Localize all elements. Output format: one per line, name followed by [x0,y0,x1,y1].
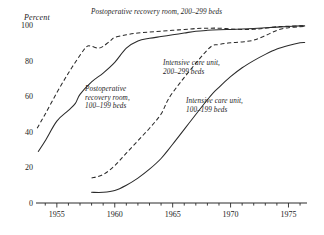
y-tick-label: 100 [21,21,33,30]
annot-prr-100: 100–199 beds [85,102,126,110]
chart-annotations: Postoperative recovery room, 200–299 bed… [84,8,243,114]
series-line-1 [38,26,304,152]
y-tick-label: 0 [29,199,33,208]
annot-icu-200: Intensive care unit, [162,59,220,67]
annot-prr-200: Postoperative recovery room, 200–299 bed… [90,8,222,16]
series-lines [37,26,305,193]
x-tick-label: 1975 [280,210,296,219]
x-tick-label: 1955 [49,210,65,219]
y-tick-label: 60 [25,92,33,101]
x-tick-label: 1970 [223,210,239,219]
annot-icu-100: 100–199 beds [186,106,227,114]
line-chart: Percent 020406080100 1955196019651970197… [0,0,324,235]
chart-container: Percent 020406080100 1955196019651970197… [0,0,324,235]
annot-icu-100: Intensive care unit, [185,97,243,105]
x-tick-label: 1960 [107,210,123,219]
annot-prr-100: recovery room, [85,94,130,102]
x-tick-label: 1965 [165,210,181,219]
annot-icu-200: 200–299 beds [163,68,204,76]
x-axis-tick-labels: 19551960196519701975 [49,210,297,219]
y-tick-label: 20 [25,163,33,172]
x-axis [36,203,307,208]
y-tick-label: 40 [25,128,33,137]
y-tick-label: 80 [25,57,33,66]
y-axis-tick-labels: 020406080100 [21,21,33,208]
annot-prr-100: Postoperative [84,85,127,93]
series-line-0 [37,26,305,128]
